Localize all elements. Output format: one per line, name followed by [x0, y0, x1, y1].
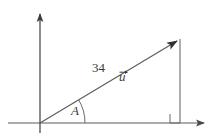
vector-name-label: u [119, 70, 126, 83]
vector-u-arrow [40, 41, 177, 123]
vector-magnitude-label: 34 [92, 61, 105, 74]
angle-arc [79, 100, 85, 123]
vector-diagram-figure: 34 u A [0, 0, 212, 140]
right-angle-marker [170, 114, 180, 123]
vector-name-glyph: u [119, 69, 126, 84]
angle-label: A [71, 104, 79, 117]
diagram-canvas [0, 0, 212, 140]
